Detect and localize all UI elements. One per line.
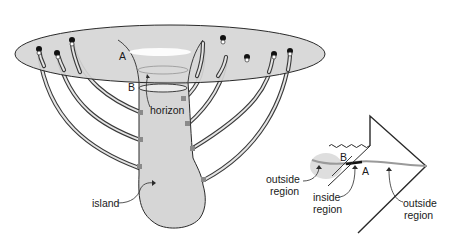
label-horizon: horizon bbox=[150, 104, 185, 116]
diagram-canvas: A B horizon island B A outside region bbox=[0, 0, 454, 246]
label-inside-1: inside bbox=[313, 191, 341, 203]
pointer-inside-head bbox=[352, 165, 358, 169]
outside-region-blob bbox=[310, 153, 342, 179]
label-a-left: A bbox=[119, 50, 126, 62]
label-b-left: B bbox=[128, 81, 135, 93]
disk-dot bbox=[220, 35, 226, 44]
right-diagram: B A outside region inside region outside… bbox=[266, 116, 437, 233]
left-diagram: A B horizon island bbox=[15, 25, 325, 228]
disk-dot bbox=[271, 51, 277, 59]
disk-dot bbox=[69, 37, 75, 46]
disk-dot bbox=[36, 46, 42, 55]
label-outside-left-1: outside bbox=[266, 173, 300, 185]
disk-highlight bbox=[129, 48, 191, 56]
label-island: island bbox=[92, 197, 120, 209]
label-outside-right-2: region bbox=[404, 209, 433, 221]
disk-dot bbox=[244, 54, 250, 62]
label-b-right: B bbox=[340, 151, 347, 163]
label-outside-left-2: region bbox=[270, 185, 299, 197]
pointer-outside-right bbox=[389, 170, 403, 202]
disk-dot bbox=[287, 48, 293, 56]
label-a-right: A bbox=[362, 165, 369, 177]
pointer-outside-right-head bbox=[386, 167, 392, 171]
wavy-boundary bbox=[329, 145, 370, 148]
label-inside-2: region bbox=[313, 203, 342, 215]
label-outside-right-1: outside bbox=[403, 197, 437, 209]
